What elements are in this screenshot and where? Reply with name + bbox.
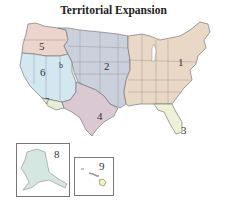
label-7: 7 <box>45 96 50 106</box>
label-2: 2 <box>104 60 110 72</box>
label-8: 8 <box>54 148 60 160</box>
label-1: 1 <box>178 56 184 68</box>
label-6b: b <box>59 61 63 70</box>
label-4: 4 <box>97 110 103 122</box>
region-6-mexican-cession[interactable] <box>20 53 76 102</box>
alaska-shape <box>17 144 69 196</box>
region-3-florida[interactable] <box>154 104 182 134</box>
alaska-inset: 8 <box>16 143 70 197</box>
label-5: 5 <box>39 40 45 52</box>
label-9: 9 <box>99 160 105 172</box>
hawaii-shape <box>75 158 113 195</box>
label-3: 3 <box>181 124 187 136</box>
hawaii-inset: 9 <box>74 157 114 196</box>
label-6: 6 <box>40 66 46 78</box>
region-1-east[interactable] <box>124 22 210 106</box>
